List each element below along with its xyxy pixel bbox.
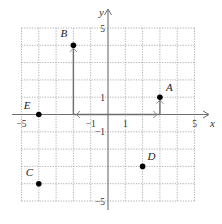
axes: xy — [12, 6, 215, 210]
x-tick-label: 1 — [123, 119, 128, 129]
point-e — [36, 112, 42, 118]
point-c — [36, 181, 42, 187]
x-axis-label: x — [209, 117, 215, 129]
point-b — [71, 43, 77, 49]
y-axis-label: y — [98, 6, 104, 18]
y-tick-label: −1 — [95, 127, 105, 137]
y-tick-label: −5 — [95, 197, 105, 207]
point-label-e: E — [23, 99, 31, 111]
point-label-c: C — [26, 166, 34, 178]
x-tick-label: 5 — [192, 119, 197, 129]
x-tick-label: −5 — [16, 119, 26, 129]
points: ABCDE — [23, 27, 173, 186]
point-a — [157, 94, 163, 100]
point-d — [140, 164, 146, 170]
y-tick-label: 5 — [100, 24, 105, 34]
point-label-d: D — [147, 150, 156, 162]
point-label-a: A — [165, 81, 173, 93]
vectors — [70, 45, 163, 118]
point-label-b: B — [60, 27, 67, 39]
y-tick-label: 1 — [100, 93, 105, 103]
coordinate-plane: xy −5−11551−1−5 ABCDE — [0, 0, 222, 224]
